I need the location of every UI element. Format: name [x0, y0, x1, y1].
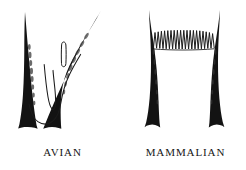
avian-central-v-hook — [44, 65, 55, 110]
panel-mammalian: MAMMALIAN — [123, 0, 246, 170]
mammalian-left-column-stroke — [145, 10, 161, 128]
panel-avian: AVIAN — [0, 0, 123, 170]
avian-sliver-oval — [61, 42, 66, 67]
mammalian-right-column-stroke — [209, 10, 225, 128]
avian-illustration — [0, 0, 123, 140]
avian-right-wedge-texture — [62, 32, 89, 94]
avian-left-wedge-stroke — [18, 12, 37, 129]
mammalian-accordion-zigzag — [154, 30, 215, 49]
figure-root: AVIAN — [0, 0, 246, 170]
mammalian-illustration — [123, 0, 246, 140]
panel-label-avian: AVIAN — [0, 146, 123, 159]
panel-label-mammalian: MAMMALIAN — [123, 146, 246, 159]
